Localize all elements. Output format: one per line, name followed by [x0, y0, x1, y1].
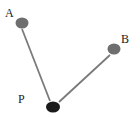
edge-a-p: [22, 29, 50, 101]
diagram-canvas: A B P: [0, 0, 140, 117]
node-p: [46, 102, 60, 113]
node-a: [16, 18, 29, 29]
label-p: P: [18, 92, 25, 106]
label-a: A: [5, 6, 14, 20]
label-b: B: [121, 32, 129, 46]
edge-b-p: [59, 55, 110, 102]
node-b: [108, 44, 121, 55]
